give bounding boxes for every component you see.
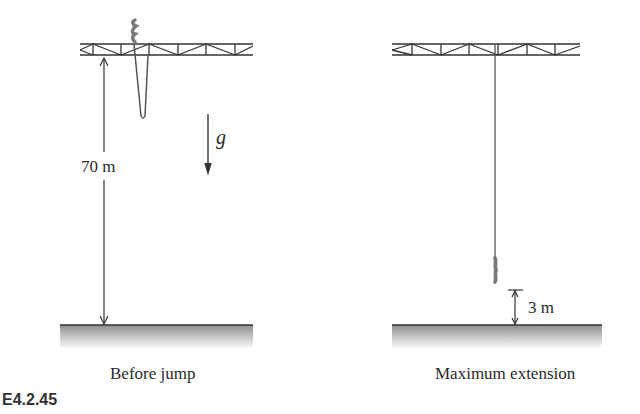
maximum-extension-panel xyxy=(392,44,602,349)
caption-before-jump: Before jump xyxy=(110,364,195,384)
truss-bridge-left xyxy=(80,44,253,55)
figure-id: E4.2.45 xyxy=(2,391,57,409)
height-label: 70 m xyxy=(81,157,115,177)
diagram-svg xyxy=(0,0,640,414)
caption-maximum-extension: Maximum extension xyxy=(435,364,575,384)
gravity-label: g xyxy=(216,126,226,149)
clearance-label: 3 m xyxy=(528,298,554,318)
height-dimension-arrow xyxy=(100,58,108,324)
ground-right xyxy=(392,325,602,349)
clearance-dimension-arrow xyxy=(508,290,523,325)
ground-left xyxy=(60,325,253,349)
truss-bridge-right xyxy=(392,44,580,55)
jumper-figure-hanging xyxy=(495,258,496,282)
before-jump-panel xyxy=(60,20,253,349)
gravity-arrow xyxy=(205,114,211,173)
jumper-figure-standing xyxy=(132,20,136,42)
diagram-canvas: 70 m g Before jump 3 m Maximum extension… xyxy=(0,0,640,414)
